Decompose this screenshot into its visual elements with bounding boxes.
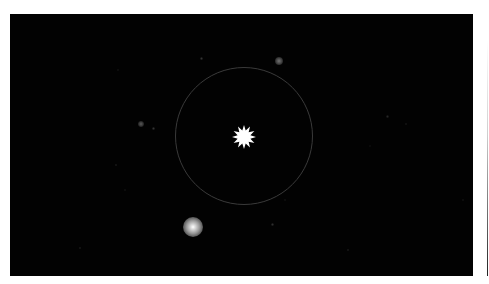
background-star	[117, 69, 119, 71]
background-star	[275, 57, 283, 65]
background-star	[369, 145, 371, 147]
background-star	[79, 247, 81, 249]
background-star	[284, 199, 286, 201]
star-field-image	[10, 14, 473, 276]
target-star-icon	[229, 122, 259, 152]
background-star	[200, 57, 203, 60]
background-star	[271, 223, 274, 226]
background-star	[462, 199, 464, 201]
background-star	[115, 164, 117, 166]
background-star	[347, 249, 349, 251]
background-star	[183, 217, 203, 237]
background-star	[405, 123, 407, 125]
background-star	[386, 115, 389, 118]
background-star	[152, 127, 155, 130]
background-star	[124, 189, 126, 191]
background-star	[138, 121, 144, 127]
frame-edge-line	[487, 40, 488, 276]
